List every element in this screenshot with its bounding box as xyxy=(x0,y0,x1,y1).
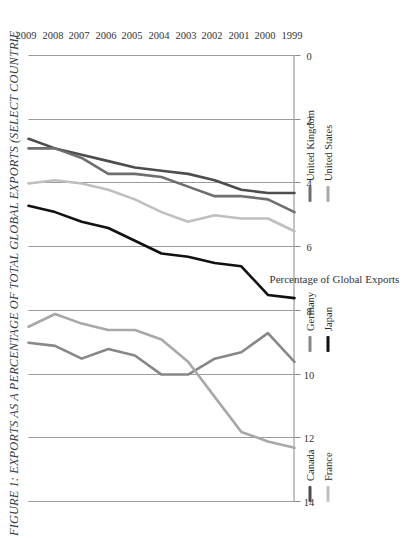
legend-item-japan[interactable]: Japan xyxy=(322,307,333,352)
legend-swatch-icon xyxy=(308,486,312,502)
series-line-canada xyxy=(28,139,294,193)
legend-label: Germany xyxy=(304,292,315,331)
legend-item-canada[interactable]: Canada xyxy=(304,450,315,503)
series-line-france xyxy=(28,180,294,231)
year-tick-label: 2006 xyxy=(90,30,120,41)
year-tick-label: 2003 xyxy=(170,30,200,41)
legend-label: Japan xyxy=(322,307,333,331)
chart-legend: CanadaFranceGermanyJapanUnited KingdomUn… xyxy=(304,52,344,502)
series-lines xyxy=(28,56,294,502)
series-line-united-states xyxy=(28,314,294,448)
legend-item-united-kingdom[interactable]: United Kingdom xyxy=(304,110,315,202)
chart-plot-area xyxy=(28,56,294,502)
year-tick-label: 2007 xyxy=(64,30,94,41)
legend-swatch-icon xyxy=(308,186,312,202)
year-tick-label: 2001 xyxy=(223,30,253,41)
legend-swatch-icon xyxy=(326,486,330,502)
series-line-united-kingdom xyxy=(28,148,294,212)
year-tick-label: 2009 xyxy=(11,30,41,41)
year-tick-label: 2008 xyxy=(37,30,67,41)
year-tick-label: 2005 xyxy=(117,30,147,41)
figure-title: FIGURE 1: EXPORTS AS A PERCENTAGE OF TOT… xyxy=(6,2,21,536)
year-tick-label: 2000 xyxy=(250,30,280,41)
legend-swatch-icon xyxy=(308,336,312,352)
legend-label: Canada xyxy=(304,450,315,482)
legend-item-france[interactable]: France xyxy=(322,452,333,502)
legend-label: France xyxy=(322,452,333,481)
legend-item-germany[interactable]: Germany xyxy=(304,292,315,352)
legend-label: United States xyxy=(322,125,333,181)
legend-label: United Kingdom xyxy=(304,110,315,181)
year-tick-label: 2004 xyxy=(144,30,174,41)
legend-item-united-states[interactable]: United States xyxy=(322,125,333,202)
year-tick-label: 2002 xyxy=(197,30,227,41)
legend-swatch-icon xyxy=(326,336,330,352)
legend-swatch-icon xyxy=(326,186,330,202)
year-tick-label: 1999 xyxy=(277,30,307,41)
